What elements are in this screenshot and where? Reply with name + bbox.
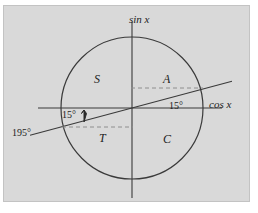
quadrant-label-sine: S: [94, 73, 100, 85]
angle-15-left-label: 15°: [62, 110, 76, 120]
quadrant-label-tangent: T: [99, 132, 106, 144]
quadrant-label-all: A: [163, 73, 170, 85]
unit-circle-figure: sin x cos x 15° 15° 195° S A T C: [0, 0, 258, 213]
sin-axis-label: sin x: [129, 14, 149, 25]
angle-15-right-label: 15°: [169, 101, 183, 111]
quadrant-label-cosine: C: [163, 133, 171, 145]
angle-195-label: 195°: [12, 128, 31, 138]
cos-axis-label: cos x: [209, 99, 231, 110]
